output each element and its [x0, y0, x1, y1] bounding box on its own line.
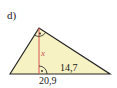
- segment-label: 14,7: [60, 63, 78, 73]
- triangle-diagram: [0, 0, 117, 88]
- altitude-label: x: [41, 49, 45, 58]
- base-label: 20,9: [39, 76, 57, 86]
- apex-right-angle-dot: [39, 33, 41, 35]
- foot-right-angle-dot: [41, 70, 43, 72]
